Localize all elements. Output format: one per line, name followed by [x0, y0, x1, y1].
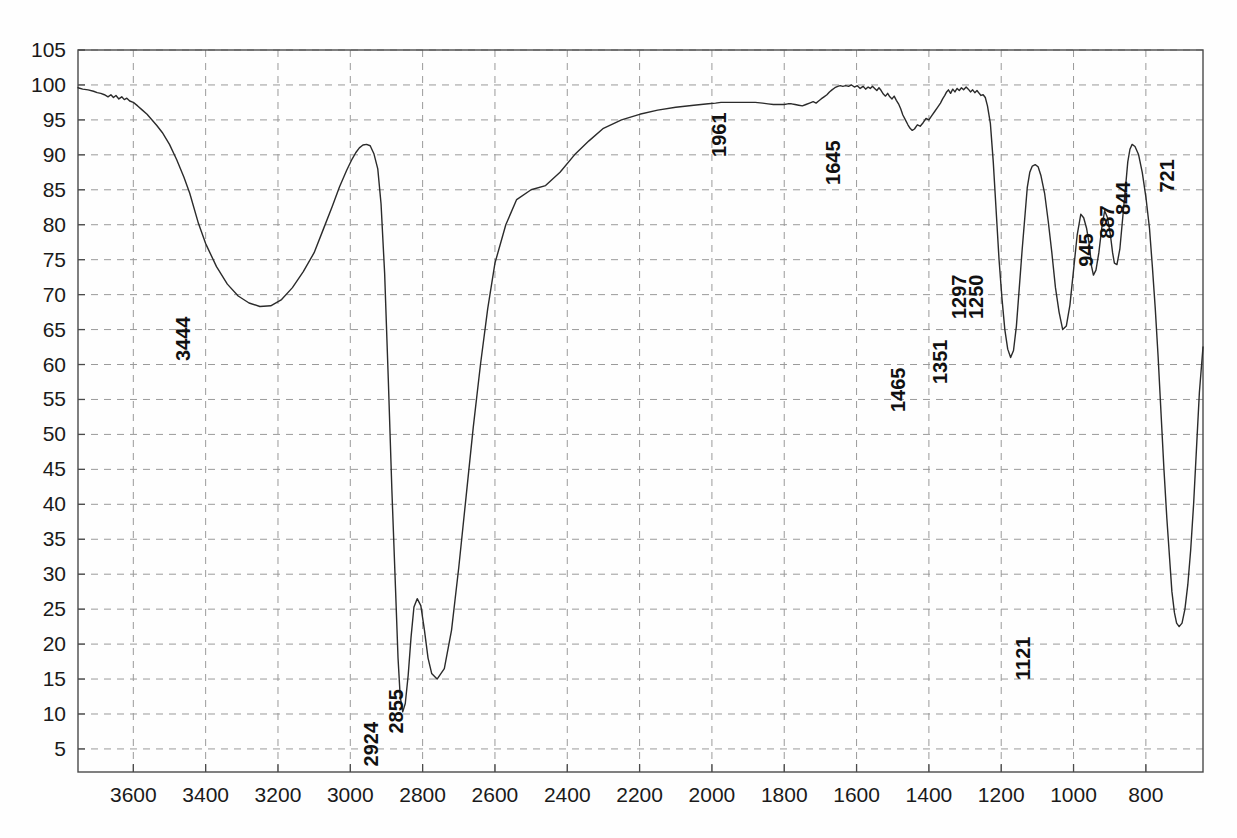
y-axis-tick-label: 60 [43, 353, 66, 376]
spectrum-trace [78, 85, 1203, 712]
x-axis-tick-label: 2600 [472, 783, 519, 806]
x-axis-tick-label: 1400 [906, 783, 953, 806]
y-axis-tick-label: 100 [31, 73, 66, 96]
peak-label: 3444 [172, 316, 194, 361]
peak-label: 945 [1075, 233, 1097, 266]
y-axis-tick-label: 105 [31, 38, 66, 61]
grid-layer [78, 50, 1203, 772]
y-axis-tick-label: 30 [43, 562, 66, 585]
x-axis-tick-label: 2400 [544, 783, 591, 806]
y-axis-tick-label: 70 [43, 283, 66, 306]
x-axis-tick-label: 3600 [110, 783, 157, 806]
peak-label: 2855 [385, 689, 407, 734]
y-axis-tick-label: 5 [54, 737, 66, 760]
x-axis-tick-labels: 3600340032003000280026002400220020001800… [110, 764, 1163, 806]
y-axis-tick-label: 95 [43, 108, 66, 131]
y-axis-tick-label: 15 [43, 667, 66, 690]
peak-label: 1351 [929, 340, 951, 385]
x-axis-tick-label: 2800 [399, 783, 446, 806]
x-axis-tick-label: 3200 [255, 783, 302, 806]
y-axis-tick-label: 80 [43, 213, 66, 236]
y-axis-tick-label: 50 [43, 422, 66, 445]
y-axis-tick-label: 55 [43, 387, 66, 410]
y-axis-tick-label: 35 [43, 527, 66, 550]
peak-label: 2924 [360, 721, 382, 766]
y-axis-tick-labels: 5101520253035404550556065707580859095100… [31, 38, 85, 760]
peak-label: 721 [1156, 159, 1178, 192]
peak-label: 1645 [822, 140, 844, 185]
peak-label: 1121 [1012, 637, 1034, 680]
x-axis-tick-label: 3400 [182, 783, 229, 806]
x-axis-tick-label: 1000 [1050, 783, 1097, 806]
plot-frame [78, 50, 1203, 772]
peak-label: 844 [1112, 181, 1134, 215]
y-axis-tick-label: 10 [43, 702, 66, 725]
x-axis-tick-label: 3000 [327, 783, 374, 806]
y-axis-tick-label: 40 [43, 492, 66, 515]
x-axis-tick-label: 2200 [616, 783, 663, 806]
y-axis-tick-label: 75 [43, 248, 66, 271]
y-axis-tick-label: 25 [43, 597, 66, 620]
x-axis-tick-label: 1600 [833, 783, 880, 806]
chart-canvas: 5101520253035404550556065707580859095100… [0, 0, 1237, 838]
x-axis-tick-label: 2000 [689, 783, 736, 806]
y-axis-tick-label: 90 [43, 143, 66, 166]
x-axis-tick-label: 1200 [978, 783, 1025, 806]
peak-label-layer: 3444292428551961164514651351129712501121… [172, 112, 1179, 766]
y-axis-tick-label: 45 [43, 457, 66, 480]
peak-label: 1465 [887, 368, 909, 413]
ir-spectrum-chart: 5101520253035404550556065707580859095100… [0, 0, 1237, 838]
spectrum-trace-layer [78, 85, 1203, 712]
peak-label: 1250 [965, 275, 987, 320]
y-axis-tick-label: 20 [43, 632, 66, 655]
y-axis-tick-label: 85 [43, 178, 66, 201]
x-axis-tick-label: 800 [1128, 783, 1163, 806]
peak-label: 1961 [708, 112, 730, 156]
y-axis-tick-label: 65 [43, 318, 66, 341]
x-axis-tick-label: 1800 [761, 783, 808, 806]
